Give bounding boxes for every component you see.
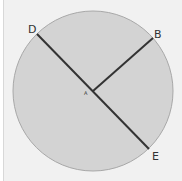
label-A: A	[84, 90, 88, 96]
label-B: B	[154, 28, 162, 41]
label-D: D	[28, 23, 36, 36]
circle-diagram: D B E A	[0, 0, 182, 181]
label-E: E	[152, 150, 159, 163]
